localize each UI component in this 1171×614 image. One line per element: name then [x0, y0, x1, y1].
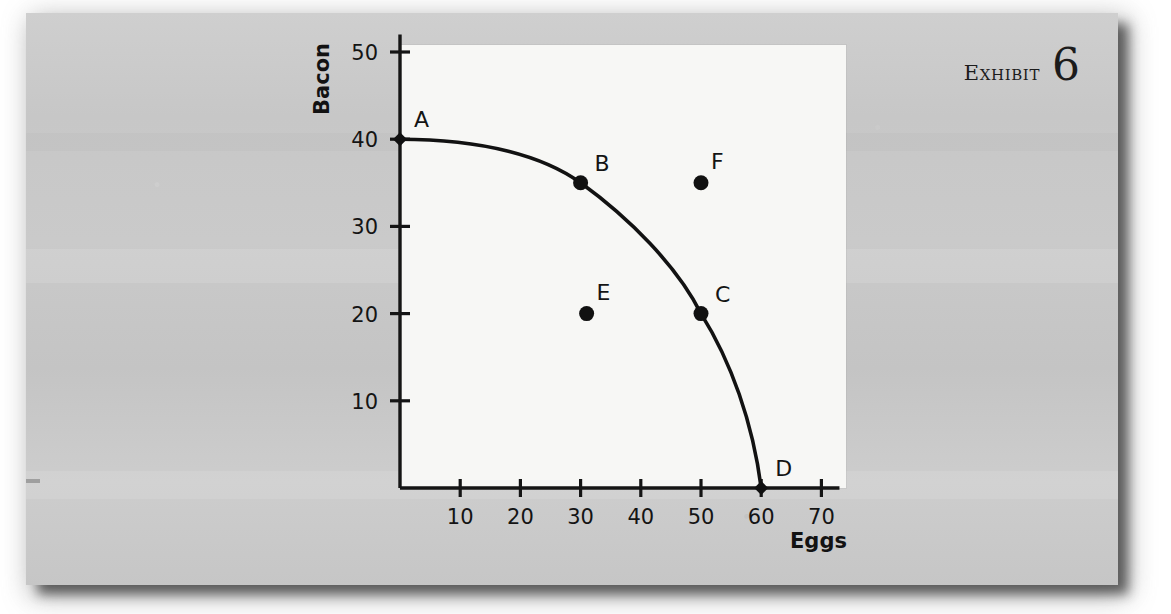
data-point-marker[interactable]	[393, 132, 407, 146]
data-point-marker[interactable]	[579, 306, 594, 321]
data-point-label: A	[414, 107, 429, 132]
data-point-marker[interactable]	[754, 481, 768, 495]
exhibit-card: Exhibit 6 Bacon Eggs 1020304050607010203…	[26, 13, 1118, 585]
y-tick-label: 50	[351, 41, 378, 65]
x-tick-label: 50	[688, 505, 715, 529]
data-point-marker[interactable]	[694, 175, 709, 190]
x-tick-label: 60	[748, 505, 775, 529]
y-tick-label: 10	[351, 390, 378, 414]
exhibit-page: Exhibit 6 Bacon Eggs 1020304050607010203…	[0, 0, 1171, 614]
x-tick-label: 70	[808, 505, 835, 529]
data-point-label: C	[715, 282, 730, 307]
y-tick-label: 40	[351, 128, 378, 152]
data-point-marker[interactable]	[694, 306, 709, 321]
y-tick-label: 20	[351, 303, 378, 327]
data-point-label: E	[597, 280, 611, 305]
data-point-label: D	[775, 456, 792, 481]
x-tick-label: 30	[567, 505, 594, 529]
chart-container: Bacon Eggs 102030405060701020304050ABCDE…	[26, 13, 1118, 585]
data-point-label: F	[711, 149, 724, 174]
x-tick-label: 40	[627, 505, 654, 529]
y-tick-label: 30	[351, 215, 378, 239]
x-tick-label: 20	[507, 505, 534, 529]
chart-svg: 102030405060701020304050ABCDEF	[26, 13, 1118, 585]
x-tick-label: 10	[447, 505, 474, 529]
data-point-marker[interactable]	[573, 175, 588, 190]
data-point-label: B	[595, 151, 610, 176]
